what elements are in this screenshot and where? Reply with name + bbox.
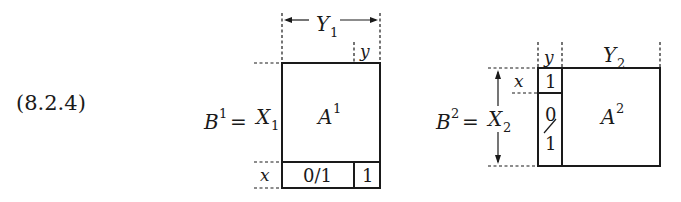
b1-symbol: B (203, 110, 219, 134)
b1-block-label-sup: 1 (333, 101, 341, 116)
block-matrix-diagram: (8.2.4) B 1 = X 1 Y 1 y x A 1 (0, 0, 681, 202)
b2-col-label: Y (603, 43, 618, 67)
b2-arrowhead-down-icon (495, 155, 501, 164)
b1-col-label-sub: 1 (330, 25, 338, 40)
b2-row-label-sub: 2 (503, 120, 511, 135)
b2-block-label-sup: 2 (616, 101, 624, 116)
equation-label: (8.2.4) (16, 91, 86, 115)
b1-bottom-right-cell: 1 (362, 165, 373, 186)
b1-bottom-left-cell: 0/1 (303, 165, 332, 186)
b1-block-label: A (316, 105, 332, 129)
matrix-b2: B 2 = y Y 2 X 2 x 1 0 1 A 2 (435, 42, 660, 166)
b2-superscript: 2 (451, 106, 459, 121)
b1-row-label-sub: 1 (271, 118, 279, 133)
b1-equals: = (230, 110, 247, 134)
b2-left-column-top: 0 (545, 104, 556, 125)
b2-arrowhead-up-icon (495, 70, 501, 79)
b2-left-column-bottom: 1 (545, 133, 556, 154)
b1-arrowhead-left-icon (284, 17, 292, 23)
b1-small-row-label: x (260, 165, 270, 185)
b2-block-label: A (599, 105, 615, 129)
b2-symbol: B (435, 110, 451, 134)
b2-equals: = (462, 110, 479, 134)
b2-top-left-cell: 1 (545, 71, 556, 92)
b2-small-col-label: y (543, 47, 554, 67)
b1-small-col-label: y (359, 41, 370, 61)
b1-row-label: X (254, 105, 271, 129)
b1-arrowhead-right-icon (370, 17, 378, 23)
b1-superscript: 1 (219, 106, 227, 121)
matrix-b1: B 1 = X 1 Y 1 y x A 1 0/1 1 (203, 12, 380, 188)
b1-col-label: Y (316, 12, 331, 36)
b2-row-label: X (486, 107, 503, 131)
b2-small-row-label: x (514, 71, 524, 91)
